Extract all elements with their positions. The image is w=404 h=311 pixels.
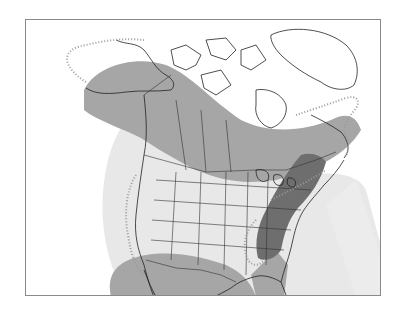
- range-map-svg: [26, 20, 381, 296]
- range-map: [25, 19, 381, 296]
